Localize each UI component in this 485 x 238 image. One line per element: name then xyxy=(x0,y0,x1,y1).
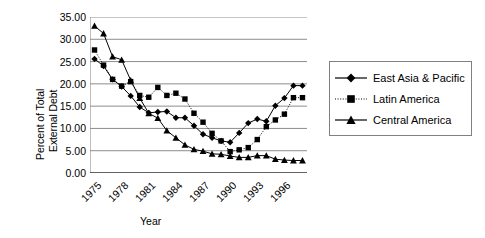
data-point-marker-diamond xyxy=(263,118,269,124)
legend-item-latin-america: Latin America xyxy=(334,88,465,109)
data-point-marker-triangle xyxy=(109,53,116,59)
legend-label-latin-america: Latin America xyxy=(373,93,440,105)
legend-label-east-asia-pacific: East Asia & Pacific xyxy=(373,72,465,84)
data-point-marker-square xyxy=(191,111,196,116)
data-point-marker-square xyxy=(236,147,241,152)
data-point-marker-diamond xyxy=(299,82,305,88)
data-point-marker-square xyxy=(264,124,269,129)
data-point-marker-square xyxy=(200,119,205,124)
data-point-marker-square xyxy=(110,77,115,82)
data-point-marker-square xyxy=(119,83,124,88)
series-line xyxy=(95,26,303,161)
series-central-america xyxy=(91,23,306,164)
chart-legend: East Asia & Pacific Latin America Centra… xyxy=(329,61,472,136)
data-point-marker-square xyxy=(164,93,169,98)
plot-area xyxy=(90,17,307,173)
legend-marker-triangle-icon xyxy=(334,113,368,127)
legend-item-east-asia-pacific: East Asia & Pacific xyxy=(334,67,465,88)
data-point-marker-square xyxy=(173,91,178,96)
data-point-marker-square xyxy=(155,85,160,90)
legend-marker-square-icon xyxy=(334,92,368,106)
data-point-marker-square xyxy=(246,145,251,150)
series-east-asia-pacific xyxy=(91,56,305,146)
data-point-marker-triangle xyxy=(118,56,125,62)
series-latin-america xyxy=(92,47,305,154)
data-point-marker-square xyxy=(273,117,278,122)
series-line xyxy=(95,50,303,152)
x-axis-tick-labels: 19751978198119841987199019931996 xyxy=(90,173,320,218)
plot-svg xyxy=(90,17,307,173)
legend-item-central-america: Central America xyxy=(334,109,465,130)
y-axis-tick-label: 20.00 xyxy=(46,79,86,89)
y-axis-tick-label: 0.00 xyxy=(46,168,86,178)
data-point-marker-triangle xyxy=(191,146,198,152)
data-point-marker-triangle xyxy=(154,115,161,121)
data-point-marker-diamond xyxy=(173,115,179,121)
y-axis-tick-label: 25.00 xyxy=(46,57,86,67)
data-point-marker-triangle xyxy=(91,23,98,29)
x-axis-title: Year xyxy=(140,215,161,227)
data-point-marker-square xyxy=(291,95,296,100)
data-point-marker-square xyxy=(282,111,287,116)
y-axis-tick-label: 35.00 xyxy=(46,12,86,22)
y-axis-tick-label: 5.00 xyxy=(46,146,86,156)
data-point-marker-square xyxy=(101,62,106,67)
y-axis-tick-label: 15.00 xyxy=(46,101,86,111)
data-point-marker-square xyxy=(218,138,223,143)
data-point-marker-diamond xyxy=(155,109,161,115)
legend-marker-diamond-icon xyxy=(334,71,368,85)
data-point-marker-square xyxy=(300,95,305,100)
data-point-marker-square xyxy=(182,96,187,101)
data-point-marker-square xyxy=(255,137,260,142)
data-point-marker-square xyxy=(209,131,214,136)
y-axis-tick-label: 30.00 xyxy=(46,34,86,44)
legend-label-central-america: Central America xyxy=(373,114,451,126)
data-point-marker-diamond xyxy=(290,82,296,88)
data-point-marker-diamond xyxy=(164,108,170,114)
data-point-marker-diamond xyxy=(254,116,260,122)
data-point-marker-square xyxy=(146,95,151,100)
data-point-marker-square xyxy=(92,47,97,52)
series-line xyxy=(95,59,303,142)
chart-figure: Percent of Total External Debt 35.0030.0… xyxy=(0,0,485,238)
y-axis-tick-label: 10.00 xyxy=(46,123,86,133)
y-axis-tick-labels: 35.0030.0025.0020.0015.0010.005.000.00 xyxy=(44,0,86,185)
